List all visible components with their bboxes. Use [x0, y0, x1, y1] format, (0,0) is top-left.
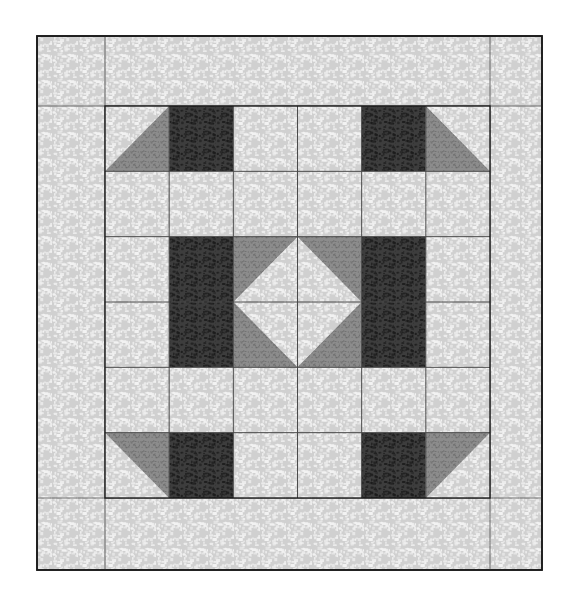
- unit-base-dark: [362, 433, 426, 498]
- unit-base-dark: [169, 302, 233, 367]
- quilt-unit: [105, 171, 169, 236]
- unit-base-light: [105, 302, 169, 367]
- quilt-unit: [298, 171, 362, 236]
- quilt-unit: [298, 433, 362, 498]
- quilt-unit: [233, 106, 297, 171]
- quilt-unit: [105, 237, 169, 302]
- quilt-unit: [362, 302, 426, 367]
- unit-base-light: [233, 171, 297, 236]
- quilt-unit: [298, 106, 362, 171]
- unit-base-dark: [169, 106, 233, 171]
- unit-base-light: [233, 106, 297, 171]
- unit-base-light: [233, 433, 297, 498]
- unit-base-light: [426, 367, 490, 432]
- quilt-unit: [426, 433, 490, 498]
- quilt-unit: [298, 237, 362, 302]
- quilt-unit: [362, 106, 426, 171]
- unit-base-light: [298, 433, 362, 498]
- quilt-unit: [298, 302, 362, 367]
- quilt-unit: [169, 106, 233, 171]
- quilt-unit: [362, 367, 426, 432]
- unit-base-light: [169, 171, 233, 236]
- unit-base-light: [426, 171, 490, 236]
- quilt-diagram-svg: [0, 0, 578, 615]
- unit-base-light: [233, 367, 297, 432]
- quilt-unit: [362, 433, 426, 498]
- quilt-unit: [169, 237, 233, 302]
- quilt-unit: [426, 367, 490, 432]
- quilt-unit: [233, 171, 297, 236]
- quilt-unit: [362, 171, 426, 236]
- unit-base-dark: [169, 237, 233, 302]
- unit-base-dark: [362, 237, 426, 302]
- unit-base-light: [298, 106, 362, 171]
- unit-base-light: [298, 367, 362, 432]
- quilt-unit: [169, 302, 233, 367]
- quilt-block-figure: [0, 0, 578, 615]
- quilt-unit: [105, 367, 169, 432]
- unit-base-dark: [362, 302, 426, 367]
- quilt-unit: [169, 433, 233, 498]
- unit-base-light: [105, 367, 169, 432]
- quilt-unit: [105, 302, 169, 367]
- unit-base-light: [426, 302, 490, 367]
- unit-base-light: [169, 367, 233, 432]
- unit-base-light: [362, 171, 426, 236]
- unit-base-dark: [362, 106, 426, 171]
- unit-base-light: [426, 237, 490, 302]
- quilt-unit: [362, 237, 426, 302]
- quilt-unit: [426, 237, 490, 302]
- quilt-unit: [169, 367, 233, 432]
- quilt-unit: [426, 302, 490, 367]
- quilt-unit: [169, 171, 233, 236]
- quilt-unit: [233, 367, 297, 432]
- quilt-unit: [426, 106, 490, 171]
- quilt-unit: [426, 171, 490, 236]
- quilt-unit: [105, 106, 169, 171]
- unit-base-light: [362, 367, 426, 432]
- unit-base-dark: [169, 433, 233, 498]
- unit-base-light: [298, 171, 362, 236]
- unit-base-light: [105, 171, 169, 236]
- quilt-unit: [298, 367, 362, 432]
- quilt-unit: [233, 237, 297, 302]
- quilt-unit: [233, 302, 297, 367]
- unit-base-light: [105, 237, 169, 302]
- quilt-unit: [105, 433, 169, 498]
- quilt-unit: [233, 433, 297, 498]
